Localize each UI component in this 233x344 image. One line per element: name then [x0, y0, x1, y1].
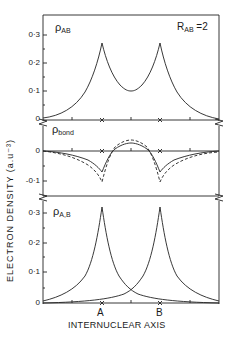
curve-rho-bond-solid: [43, 143, 219, 172]
atom-b-label: B: [156, 308, 163, 318]
mid-y-ticks: [43, 166, 47, 181]
mid-tick-neg-0-1: -0·1: [20, 177, 40, 185]
curve-rho-bond-dashed: [43, 140, 219, 182]
top-panel-title: ρAB: [55, 22, 71, 34]
curve-rho-b: [43, 207, 219, 303]
top-tick-0: 0: [20, 115, 40, 123]
bottom-panel-title: ρA,B: [53, 206, 71, 218]
x-ticks: [72, 117, 190, 303]
r-label-sub: AB: [184, 26, 193, 33]
axis-break-left-2: [39, 194, 47, 201]
mid-tick-0: 0: [20, 147, 40, 155]
top-tick-0-3: 0·3: [20, 31, 40, 39]
bottom-tick-0-1: 0·1: [20, 268, 40, 276]
y-axis-label: ELECTRON DENSITY (a.u⁻³): [5, 139, 15, 282]
x-axis-label: INTERNUCLEAR AXIS: [68, 321, 166, 330]
axis-break-right-2: [215, 194, 223, 201]
curve-rho-a: [43, 207, 219, 303]
bottom-tick-0: 0: [20, 299, 40, 307]
r-ab-annotation: RAB =2: [177, 22, 208, 33]
bottom-tick-0-2: 0·2: [20, 239, 40, 247]
mid-panel-title: ρbond: [52, 124, 74, 136]
electron-density-figure: [0, 0, 233, 344]
top-tick-0-1: 0·1: [20, 87, 40, 95]
bottom-tick-0-3: 0·3: [20, 209, 40, 217]
mid-title-sub: bond: [58, 129, 74, 136]
top-y-ticks: [43, 35, 47, 105]
top-title-sub: AB: [61, 27, 70, 34]
curve-rho-ab: [43, 43, 219, 119]
bot-title-sub: A,B: [59, 211, 70, 218]
r-label-value: =2: [194, 21, 208, 32]
bottom-y-ticks: [43, 213, 47, 288]
top-tick-0-2: 0·2: [20, 59, 40, 67]
atom-a-label: A: [97, 308, 104, 318]
